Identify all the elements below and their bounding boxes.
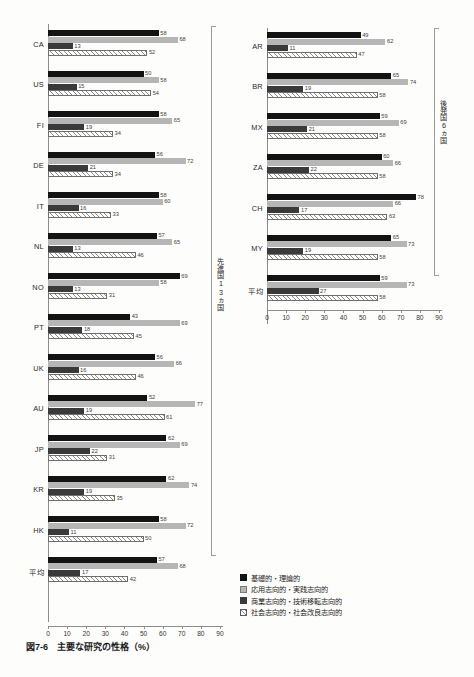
bar-商業志向的・技術移転志向的 bbox=[267, 126, 307, 132]
bar-row: 19 bbox=[48, 124, 223, 130]
category-label-NL: NL bbox=[18, 242, 44, 251]
category-label-平均: 平均 bbox=[237, 285, 263, 296]
bar-応用志向的・実践志向的 bbox=[48, 523, 186, 529]
bar-stack: 69581331 bbox=[48, 273, 223, 299]
bar-value-label: 16 bbox=[80, 367, 86, 373]
group-label-developed: 先進国13ヵ国 bbox=[216, 258, 224, 311]
bar-stack: 58721150 bbox=[48, 516, 223, 542]
bar-value-label: 22 bbox=[92, 448, 98, 454]
bar-value-label: 58 bbox=[379, 294, 385, 300]
bar-value-label: 58 bbox=[160, 192, 166, 198]
bar-row: 52 bbox=[48, 50, 223, 56]
bar-row: 77 bbox=[48, 401, 223, 407]
bar-value-label: 65 bbox=[174, 117, 180, 123]
bar-社会志向的・社会改良志向的 bbox=[48, 374, 136, 380]
bar-value-label: 58 bbox=[160, 516, 166, 522]
x-tick-label: 10 bbox=[282, 314, 289, 321]
category-label-KR: KR bbox=[18, 485, 44, 494]
bar-stack: 62692231 bbox=[48, 435, 223, 461]
bracket-cap-bottom bbox=[434, 275, 439, 276]
bar-応用志向的・実践志向的 bbox=[48, 199, 163, 205]
x-tick bbox=[363, 310, 364, 313]
bar-value-label: 78 bbox=[418, 194, 424, 200]
category-label-JP: JP bbox=[18, 445, 44, 454]
bar-value-label: 62 bbox=[168, 475, 174, 481]
bar-row: 61 bbox=[48, 414, 223, 420]
bar-value-label: 47 bbox=[358, 51, 364, 57]
bar-value-label: 58 bbox=[160, 111, 166, 117]
bar-row: 19 bbox=[267, 248, 442, 254]
bar-value-label: 58 bbox=[160, 279, 166, 285]
bar-row: 58 bbox=[267, 173, 442, 179]
bar-row: 15 bbox=[48, 84, 223, 90]
bar-row: 68 bbox=[48, 37, 223, 43]
bar-row: 57 bbox=[48, 557, 223, 563]
bar-商業志向的・技術移転志向的 bbox=[48, 205, 79, 211]
bar-value-label: 19 bbox=[86, 488, 92, 494]
bar-row: 73 bbox=[267, 282, 442, 288]
bar-基礎的・理論的 bbox=[48, 233, 157, 239]
bar-社会志向的・社会改良志向的 bbox=[48, 576, 128, 582]
bar-value-label: 13 bbox=[74, 286, 80, 292]
bar-社会志向的・社会改良志向的 bbox=[48, 212, 111, 218]
bar-row: 19 bbox=[267, 86, 442, 92]
bracket-cap-top bbox=[211, 26, 216, 27]
bar-value-label: 19 bbox=[305, 85, 311, 91]
bar-row: 69 bbox=[48, 273, 223, 279]
bar-value-label: 66 bbox=[395, 200, 401, 206]
bar-row: 58 bbox=[48, 111, 223, 117]
bar-stack: 56722134 bbox=[48, 152, 223, 178]
bar-row: 66 bbox=[48, 361, 223, 367]
x-tick bbox=[305, 310, 306, 313]
category-label-平均: 平均 bbox=[18, 566, 44, 577]
x-tick bbox=[343, 310, 344, 313]
x-tick bbox=[401, 310, 402, 313]
bar-応用志向的・実践志向的 bbox=[267, 39, 385, 45]
bar-row: 35 bbox=[48, 495, 223, 501]
bar-基礎的・理論的 bbox=[48, 192, 159, 198]
category-label-MY: MY bbox=[237, 244, 263, 253]
bar-value-label: 65 bbox=[174, 239, 180, 245]
bar-stack: 52771961 bbox=[48, 395, 223, 421]
bar-基礎的・理論的 bbox=[48, 354, 155, 360]
bar-value-label: 57 bbox=[158, 232, 164, 238]
bar-stack: 60662258 bbox=[267, 154, 442, 180]
bar-value-label: 27 bbox=[320, 288, 326, 294]
legend-swatch-commercial bbox=[240, 597, 247, 604]
bar-社会志向的・社会改良志向的 bbox=[48, 495, 115, 501]
bar-row: 62 bbox=[48, 435, 223, 441]
bar-value-label: 69 bbox=[181, 441, 187, 447]
bar-row: 59 bbox=[267, 113, 442, 119]
bar-value-label: 19 bbox=[305, 247, 311, 253]
legend-label-commercial: 商業志向的・技術移転志向的 bbox=[251, 596, 342, 606]
bar-row: 57 bbox=[48, 233, 223, 239]
figure-root: CA58681352US50581554FI58651934DE56722134… bbox=[0, 0, 474, 677]
bar-row: 58 bbox=[267, 133, 442, 139]
bar-value-label: 19 bbox=[86, 407, 92, 413]
bar-row: 11 bbox=[267, 45, 442, 51]
x-tick-label: 90 bbox=[216, 630, 223, 637]
bar-value-label: 49 bbox=[362, 32, 368, 38]
bar-row: 22 bbox=[267, 167, 442, 173]
legend-item-applied: 応用志向的・実践志向的 bbox=[240, 584, 440, 596]
bar-社会志向的・社会改良志向的 bbox=[48, 90, 151, 96]
category-label-UK: UK bbox=[18, 364, 44, 373]
bar-基礎的・理論的 bbox=[267, 275, 380, 281]
x-axis-left: 0102030405060708090 bbox=[48, 626, 223, 640]
bar-社会志向的・社会改良志向的 bbox=[267, 52, 357, 58]
bar-基礎的・理論的 bbox=[267, 73, 391, 79]
bar-stack: 62741935 bbox=[48, 476, 223, 502]
bar-value-label: 31 bbox=[109, 292, 115, 298]
bar-商業志向的・技術移転志向的 bbox=[48, 84, 77, 90]
bar-value-label: 19 bbox=[86, 124, 92, 130]
bar-value-label: 13 bbox=[74, 245, 80, 251]
legend-label-applied: 応用志向的・実践志向的 bbox=[251, 584, 328, 594]
bar-stack: 57651346 bbox=[48, 233, 223, 259]
bar-商業志向的・技術移転志向的 bbox=[48, 286, 73, 292]
x-axis-line-left bbox=[48, 626, 223, 627]
bar-応用志向的・実践志向的 bbox=[48, 280, 159, 286]
bar-row: 31 bbox=[48, 455, 223, 461]
bar-value-label: 34 bbox=[114, 130, 120, 136]
bar-value-label: 72 bbox=[187, 522, 193, 528]
category-label-DE: DE bbox=[18, 161, 44, 170]
